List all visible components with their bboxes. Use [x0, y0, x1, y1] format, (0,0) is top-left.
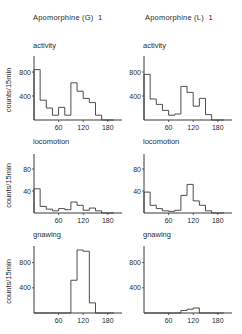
x-tick-label: 120	[77, 317, 89, 324]
x-tick-label: 60	[55, 217, 63, 224]
y-axis-label: counts/15min	[4, 259, 13, 304]
y-tick-label: 400	[19, 93, 31, 100]
panel-activity-g: activity40080060120180counts/15min	[4, 41, 122, 131]
histogram-series	[144, 184, 224, 213]
histogram-grid: activity40080060120180counts/15minactivi…	[0, 0, 242, 334]
y-axis-label: counts/15min	[4, 163, 13, 208]
y-tick-label: 800	[129, 259, 141, 266]
x-tick-label: 60	[165, 217, 173, 224]
panel-title: activity	[143, 41, 166, 50]
y-tick-label: 40	[23, 188, 31, 195]
x-tick-label: 120	[187, 317, 199, 324]
y-tick-label: 80	[23, 166, 31, 173]
x-tick-label: 120	[77, 124, 89, 131]
x-tick-label: 180	[102, 124, 114, 131]
histogram-series	[34, 250, 114, 313]
panel-gnawing-g: gnawing40080060120180counts/15min	[4, 230, 122, 324]
x-tick-label: 180	[212, 317, 224, 324]
x-tick-label: 60	[165, 124, 173, 131]
x-tick-label: 60	[55, 317, 63, 324]
x-tick-label: 120	[77, 217, 89, 224]
y-tick-label: 800	[129, 69, 141, 76]
histogram-series	[144, 308, 224, 313]
figure: Apomorphine (G) 1 Apomorphine (L) 1 acti…	[0, 0, 242, 334]
y-axis-label: counts/15min	[4, 68, 13, 113]
x-tick-label: 180	[102, 317, 114, 324]
panel-title: activity	[33, 41, 56, 50]
panel-title: gnawing	[143, 230, 171, 239]
histogram-series	[144, 74, 224, 120]
y-tick-label: 800	[19, 69, 31, 76]
panel-title: gnawing	[33, 230, 61, 239]
x-tick-label: 60	[55, 124, 63, 131]
y-tick-label: 80	[133, 166, 141, 173]
x-tick-label: 180	[212, 217, 224, 224]
panel-locomotion-l: locomotion408060120180	[133, 137, 232, 224]
panel-locomotion-g: locomotion408060120180counts/15min	[4, 137, 122, 224]
panel-gnawing-l: gnawing40080060120180	[129, 230, 232, 324]
panel-activity-l: activity40080060120180	[129, 41, 232, 131]
histogram-series	[34, 189, 114, 213]
x-tick-label: 180	[212, 124, 224, 131]
x-tick-label: 120	[187, 217, 199, 224]
y-tick-label: 400	[129, 284, 141, 291]
panel-title: locomotion	[33, 137, 69, 146]
y-tick-label: 400	[129, 93, 141, 100]
y-tick-label: 40	[133, 188, 141, 195]
x-tick-label: 120	[187, 124, 199, 131]
histogram-series	[34, 70, 114, 120]
x-tick-label: 60	[165, 317, 173, 324]
y-tick-label: 800	[19, 259, 31, 266]
x-tick-label: 180	[102, 217, 114, 224]
panel-title: locomotion	[143, 137, 179, 146]
y-tick-label: 400	[19, 284, 31, 291]
